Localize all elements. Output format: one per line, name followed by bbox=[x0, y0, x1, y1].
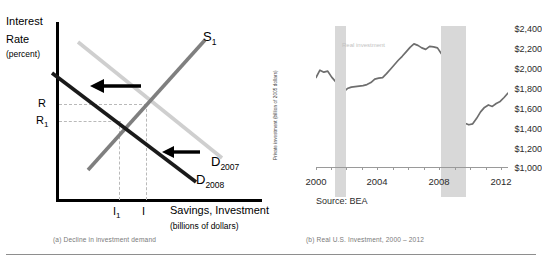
figure-container: Interest Rate (percent) bbox=[0, 0, 542, 262]
demand-2008-label-text: D bbox=[196, 172, 205, 187]
x-tick-I-text: I bbox=[142, 205, 145, 217]
chart-source-note: Source: BEA bbox=[316, 196, 368, 206]
x-tick-I1: I1 bbox=[113, 206, 121, 220]
demand-2007-curve-label: D2007 bbox=[211, 155, 239, 171]
y-tick-R1: R1 bbox=[36, 115, 48, 129]
y-tick-R1-sub: 1 bbox=[44, 120, 48, 129]
chart-x-tickmark bbox=[408, 167, 409, 170]
demand-2008-curve bbox=[52, 73, 196, 182]
demand-2007-label-text: D bbox=[211, 154, 220, 169]
chart-x-tickmark bbox=[470, 167, 471, 170]
shift-arrow-lower bbox=[162, 146, 200, 158]
supply-curve-label: S1 bbox=[203, 30, 216, 46]
chart-x-tickmark bbox=[424, 167, 425, 170]
chart-x-tickmark bbox=[455, 167, 456, 170]
chart-x-tick-2012: 2012 bbox=[483, 176, 519, 187]
caption-panel-a: (a) Decline in investment demand bbox=[53, 236, 156, 243]
shift-arrow-upper bbox=[90, 79, 141, 93]
chart-y-axis-label: Private investment (billion of 2005 doll… bbox=[273, 70, 278, 160]
demand-2008-curve-label: D2008 bbox=[196, 173, 224, 189]
recession-band-2001 bbox=[335, 26, 346, 197]
supply-curve-label-sub: 1 bbox=[212, 37, 217, 47]
demand-2008-label-sub: 2008 bbox=[205, 180, 224, 190]
panel-a-x-axis-sublabel: (billions of dollars) bbox=[170, 222, 239, 231]
demand-2007-label-sub: 2007 bbox=[220, 162, 239, 172]
caption-panel-b: (b) Real U.S. Investment, 2000 – 2012 bbox=[306, 236, 424, 243]
chart-x-tick-2000: 2000 bbox=[298, 176, 334, 187]
x-tick-I: I bbox=[142, 206, 145, 217]
y-tick-R-text: R bbox=[38, 97, 46, 109]
y-tick-R: R bbox=[38, 98, 46, 109]
panel-a-investment-demand-diagram: Interest Rate (percent) bbox=[0, 0, 268, 262]
chart-x-tickmark bbox=[439, 167, 440, 170]
chart-x-tick-2004: 2004 bbox=[359, 176, 395, 187]
chart-x-tickmark bbox=[486, 167, 487, 170]
chart-plot-area bbox=[316, 28, 508, 167]
chart-x-tickmark bbox=[393, 167, 394, 170]
x-tick-I1-sub: 1 bbox=[116, 211, 120, 220]
chart-x-axis bbox=[316, 167, 508, 168]
chart-x-tick-2008: 2008 bbox=[421, 176, 457, 187]
chart-x-tickmark bbox=[316, 167, 317, 170]
chart-x-tickmark bbox=[331, 167, 332, 170]
recession-band-2008 bbox=[441, 26, 467, 197]
chart-x-tickmark bbox=[346, 167, 347, 170]
chart-x-tickmark bbox=[362, 167, 363, 170]
panel-a-x-axis-label: Savings, Investment bbox=[170, 205, 269, 216]
panel-b-real-investment-chart: Private investment (billion of 2005 doll… bbox=[268, 0, 542, 262]
chart-x-tickmark bbox=[501, 167, 502, 170]
supply-curve-label-text: S bbox=[203, 29, 212, 44]
chart-x-tickmark bbox=[377, 167, 378, 170]
y-tick-R1-text: R bbox=[36, 114, 44, 126]
figure-bottom-rule bbox=[6, 254, 536, 255]
chart-series-annotation: Real investment bbox=[342, 42, 385, 48]
